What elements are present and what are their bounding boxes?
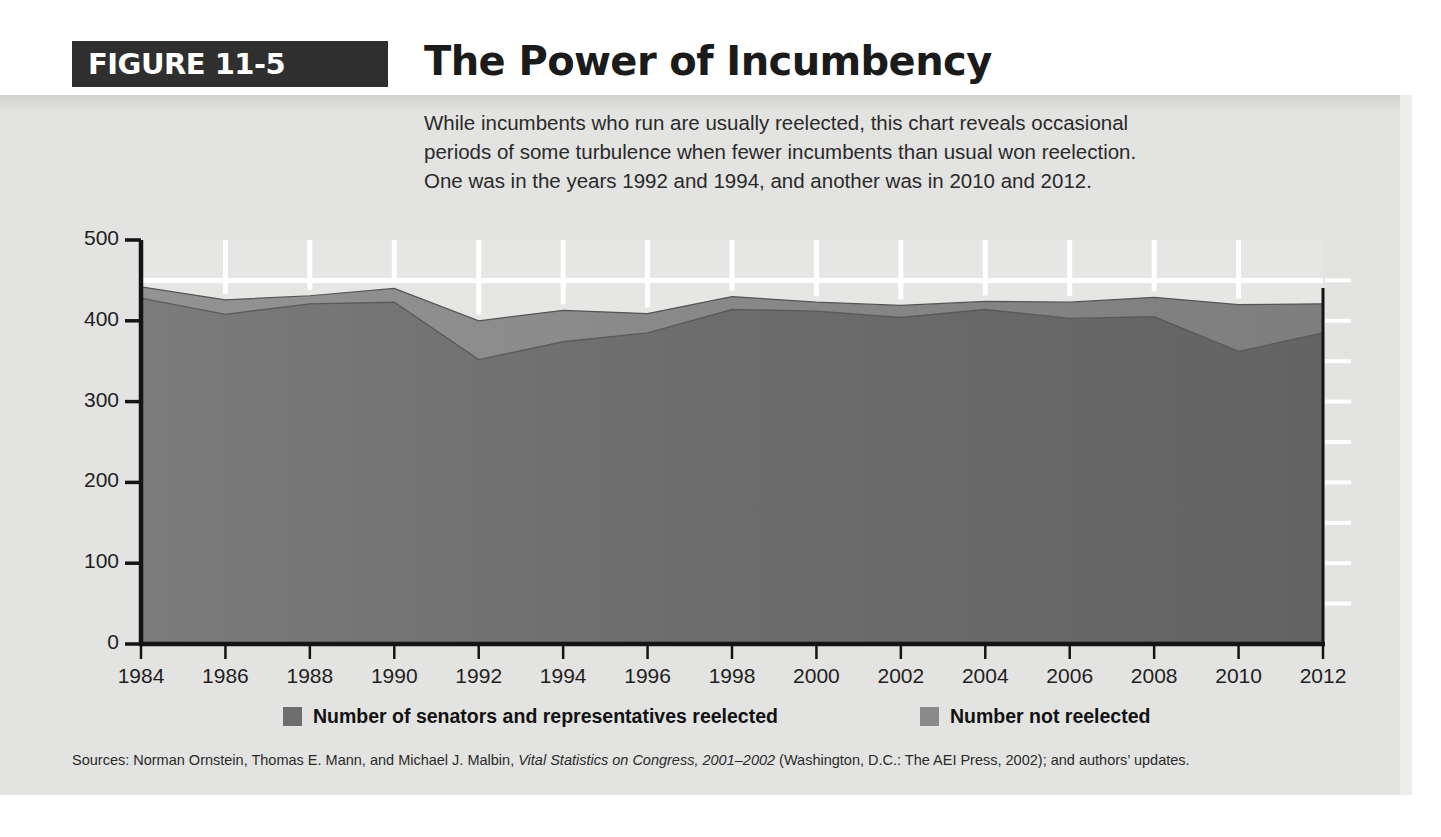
legend-label-not-reelected: Number not reelected bbox=[950, 705, 1150, 728]
chart-panel-background bbox=[0, 95, 1412, 795]
figure-number-tag: FIGURE 11-5 bbox=[72, 41, 388, 87]
y-axis-label-200: 200 bbox=[59, 468, 119, 492]
description-line-2: periods of some turbulence when fewer in… bbox=[424, 137, 1214, 166]
legend-swatch-reelected bbox=[283, 707, 302, 726]
y-axis-label-400: 400 bbox=[59, 307, 119, 331]
source-suffix: (Washington, D.C.: The AEI Press, 2002);… bbox=[775, 752, 1190, 768]
y-axis-label-100: 100 bbox=[59, 549, 119, 573]
x-axis-label-1984: 1984 bbox=[101, 664, 181, 688]
x-axis-label-2012: 2012 bbox=[1283, 664, 1363, 688]
page-title: The Power of Incumbency bbox=[424, 38, 992, 84]
x-axis-label-2008: 2008 bbox=[1114, 664, 1194, 688]
x-axis-label-1996: 1996 bbox=[608, 664, 688, 688]
y-axis-label-300: 300 bbox=[59, 388, 119, 412]
x-axis-label-2002: 2002 bbox=[861, 664, 941, 688]
y-axis-label-500: 500 bbox=[59, 226, 119, 250]
legend-swatch-not-reelected bbox=[920, 707, 939, 726]
panel-right-edge bbox=[1400, 95, 1412, 795]
x-axis-label-1998: 1998 bbox=[692, 664, 772, 688]
x-axis-label-1988: 1988 bbox=[270, 664, 350, 688]
legend-label-reelected: Number of senators and representatives r… bbox=[313, 705, 778, 728]
figure-page: FIGURE 11-5 The Power of Incumbency Whil… bbox=[0, 0, 1441, 837]
source-prefix: Sources: Norman Ornstein, Thomas E. Mann… bbox=[72, 752, 518, 768]
source-italic-title: Vital Statistics on Congress, 2001–2002 bbox=[518, 752, 775, 768]
figure-description: While incumbents who run are usually ree… bbox=[424, 108, 1214, 195]
y-axis-label-0: 0 bbox=[59, 630, 119, 654]
x-axis-label-2006: 2006 bbox=[1030, 664, 1110, 688]
x-axis-label-2010: 2010 bbox=[1199, 664, 1279, 688]
legend-item-not-reelected[interactable]: Number not reelected bbox=[920, 705, 1150, 728]
legend-item-reelected[interactable]: Number of senators and representatives r… bbox=[283, 705, 778, 728]
x-axis-label-2000: 2000 bbox=[776, 664, 856, 688]
description-line-1: While incumbents who run are usually ree… bbox=[424, 108, 1214, 137]
chart-legend: Number of senators and representatives r… bbox=[0, 700, 1412, 734]
x-axis-label-1986: 1986 bbox=[185, 664, 265, 688]
x-axis-label-2004: 2004 bbox=[945, 664, 1025, 688]
source-note: Sources: Norman Ornstein, Thomas E. Mann… bbox=[72, 752, 1190, 768]
description-line-3: One was in the years 1992 and 1994, and … bbox=[424, 166, 1214, 195]
x-axis-label-1992: 1992 bbox=[439, 664, 519, 688]
x-axis-label-1990: 1990 bbox=[354, 664, 434, 688]
x-axis-label-1994: 1994 bbox=[523, 664, 603, 688]
